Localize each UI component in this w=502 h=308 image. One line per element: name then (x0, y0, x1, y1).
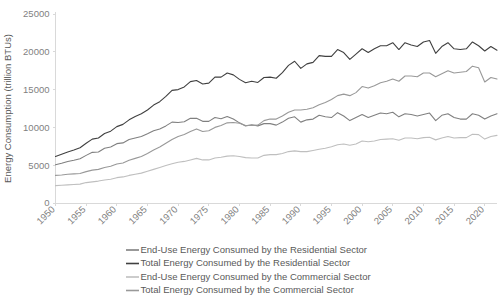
x-tick-label: 1970 (157, 204, 180, 227)
x-tick-label: 2000 (341, 204, 364, 227)
legend-label-0: End-Use Energy Consumed by the Residenti… (141, 244, 368, 255)
energy-consumption-line-chart: 0500010000150002000025000 19501955196019… (0, 0, 502, 308)
series-line-0 (56, 112, 498, 165)
x-tick-label: 2020 (463, 204, 486, 227)
x-tick-label: 1980 (218, 204, 241, 227)
x-axis: 1950195519601965197019751980198519901995… (34, 203, 497, 226)
y-tick-label: 5000 (28, 160, 49, 171)
y-tick-label: 20000 (23, 46, 49, 57)
y-axis-title-text: Energy Consumption (trillion BTUs) (2, 34, 13, 183)
y-axis: 0500010000150002000025000 (23, 8, 55, 208)
x-tick-label: 2010 (402, 204, 425, 227)
x-tick-label: 2015 (433, 204, 456, 227)
legend-label-1: Total Energy Consumed by the Residential… (141, 257, 351, 268)
chart-plot-area: 0500010000150002000025000 19501955196019… (0, 0, 502, 308)
chart-legend: End-Use Energy Consumed by the Residenti… (126, 244, 371, 296)
x-tick-label: 2005 (371, 204, 394, 227)
x-tick-label: 1960 (96, 204, 119, 227)
series-lines (56, 40, 498, 185)
series-line-3 (56, 66, 498, 175)
y-tick-label: 15000 (23, 84, 49, 95)
x-tick-label: 1990 (279, 204, 302, 227)
y-axis-title: Energy Consumption (trillion BTUs) (2, 34, 13, 183)
y-tick-label: 25000 (23, 8, 49, 19)
x-tick-label: 1995 (310, 204, 333, 227)
x-tick-label: 1975 (187, 204, 210, 227)
x-tick-label: 1985 (249, 204, 272, 227)
series-line-2 (56, 134, 498, 185)
legend-label-3: Total Energy Consumed by the Commercial … (141, 284, 354, 295)
legend-label-2: End-Use Energy Consumed by the Commercia… (141, 271, 371, 282)
y-tick-label: 10000 (23, 122, 49, 133)
x-tick-label: 1955 (65, 204, 88, 227)
x-tick-label: 1965 (126, 204, 149, 227)
series-line-1 (56, 40, 498, 156)
x-tick-label: 1950 (34, 204, 57, 227)
